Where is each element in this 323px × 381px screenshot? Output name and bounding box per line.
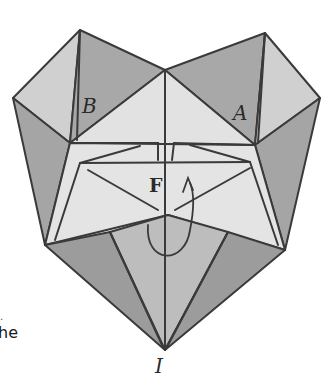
label-b: B (82, 96, 97, 116)
heart-faces (13, 30, 320, 350)
side-text-fragment: he (0, 325, 18, 341)
label-a: A (233, 103, 247, 123)
label-i: I (155, 356, 163, 376)
band-top-line (80, 162, 250, 163)
side-text-mark: . (0, 312, 3, 322)
label-f: F (149, 176, 163, 195)
